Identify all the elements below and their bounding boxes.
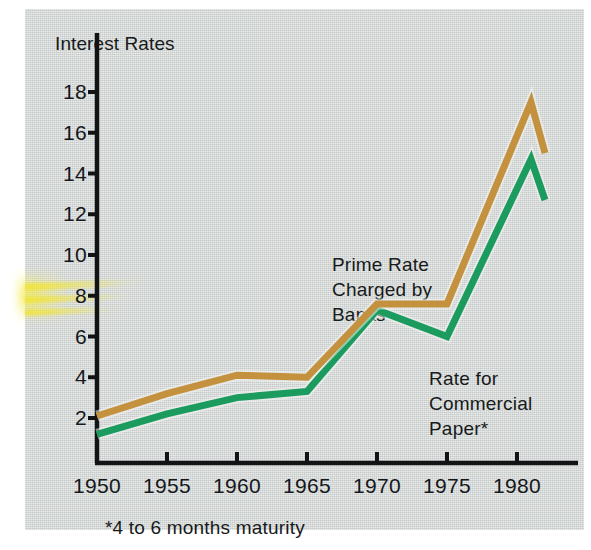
scanned-page: Interest Rates *4 to 6 months maturity P… <box>0 0 591 550</box>
y-tick-label: 6 <box>41 326 87 347</box>
y-tick-label: 16 <box>41 122 87 143</box>
x-tick-label: 1970 <box>342 475 412 496</box>
x-tick-label: 1960 <box>202 475 272 496</box>
y-tick-label: 10 <box>41 244 87 265</box>
y-tick-label: 18 <box>41 81 87 102</box>
x-tick-label: 1980 <box>482 475 552 496</box>
series-annotation-commercial-paper: Rate for Commercial Paper* <box>429 366 532 441</box>
highlighter-streak-3 <box>25 306 120 315</box>
y-tick-label: 14 <box>41 163 87 184</box>
chart-figure: Interest Rates *4 to 6 months maturity P… <box>25 9 584 530</box>
y-tick-label: 8 <box>41 285 87 306</box>
y-tick-label: 4 <box>41 366 87 387</box>
x-tick-label: 1955 <box>132 475 202 496</box>
y-tick-label: 2 <box>41 407 87 428</box>
x-tick-label: 1975 <box>412 475 482 496</box>
x-tick-label: 1950 <box>62 475 132 496</box>
x-tick-label: 1965 <box>272 475 342 496</box>
series-annotation-prime-rate: Prime Rate Charged by Banks <box>332 252 432 327</box>
y-axis-title: Interest Rates <box>55 31 175 56</box>
footnote: *4 to 6 months maturity <box>105 517 305 539</box>
y-tick-label: 12 <box>41 203 87 224</box>
